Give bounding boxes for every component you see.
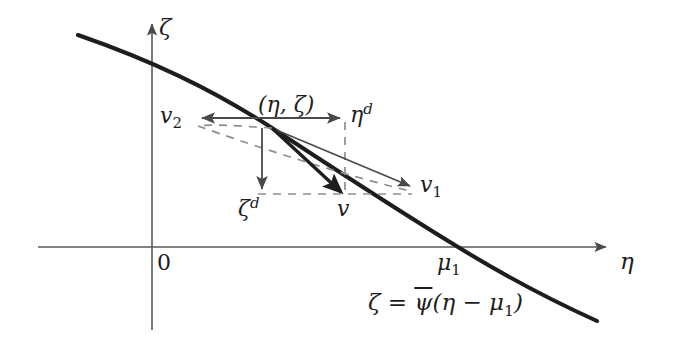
vector-v-line [273, 129, 341, 192]
x-intercept-base: μ [437, 250, 451, 275]
point-coordinates-label: (η, ζ) [258, 94, 314, 116]
vector-eta-d-label: ηd [350, 102, 373, 126]
diagonal-dashed-guide [198, 125, 272, 128]
curve-eq-mu-subscript: 1 [504, 301, 514, 320]
vector-v2-label: v2 [160, 105, 182, 131]
vector-zeta-d-superscript: d [250, 194, 260, 212]
curve-equation-label: ζ = ψ(η − μ1) [368, 290, 523, 318]
curve-eq-close: ) [514, 289, 523, 315]
vector-v1-line [274, 129, 410, 186]
point-label-comma: , [280, 92, 294, 117]
vector-v-label: v [337, 198, 349, 220]
curve-eq-zeta: ζ [368, 289, 380, 315]
vector-eta-d-superscript: d [363, 100, 373, 118]
vector-v1-label: v1 [420, 174, 442, 200]
vector-v1-base: v [420, 172, 432, 197]
vector-eta-d-base: η [350, 102, 363, 127]
vector-zeta-d-base: ζ [238, 196, 250, 221]
vector-v2-subscript: 2 [172, 114, 182, 132]
x-axis-label: η [620, 250, 634, 273]
point-label-eta: η [267, 92, 280, 117]
curve-eq-rest: (η − μ [432, 289, 504, 315]
psi-curve [78, 35, 597, 321]
diagram-svg [0, 0, 674, 348]
figure-canvas: ζ η 0 (η, ζ) v2 v1 v ηd ζd μ1 ζ = ψ(η − … [0, 0, 674, 348]
vector-v2-base: v [160, 103, 172, 128]
curve-eq-equals: = [388, 289, 407, 315]
vector-v1-subscript: 1 [432, 183, 442, 201]
point-label-zeta: ζ [294, 92, 306, 117]
curve-eq-psi-bar: ψ [414, 290, 432, 314]
point-label-open: ( [258, 92, 267, 117]
y-axis-label: ζ [159, 16, 171, 39]
x-intercept-subscript: 1 [451, 261, 461, 279]
x-intercept-label: μ1 [437, 252, 461, 278]
vector-zeta-d-label: ζd [238, 196, 260, 220]
origin-label: 0 [157, 252, 171, 274]
point-label-close: ) [306, 92, 315, 117]
